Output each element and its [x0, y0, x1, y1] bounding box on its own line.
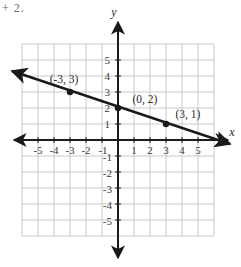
x-tick-label-3: 3: [163, 144, 169, 156]
x-tick-label-2: 2: [147, 144, 153, 156]
y-tick-label-minus1: -1: [103, 151, 112, 163]
y-tick-label-3: 3: [105, 86, 111, 98]
data-point-3-1: [163, 121, 169, 127]
y-tick-label-4: 4: [105, 70, 111, 82]
y-tick-label-minus2: -2: [103, 167, 112, 179]
graph-figure: + 2.: [0, 0, 241, 267]
y-tick-label-2: 2: [105, 102, 111, 114]
y-tick-label-5: 5: [105, 54, 111, 66]
x-tick-label-1: 1: [131, 144, 137, 156]
x-tick-label-4: 4: [179, 144, 185, 156]
y-tick-label-minus5: -5: [103, 215, 113, 227]
y-tick-label-minus3: -3: [103, 183, 113, 195]
x-tick-label-5: 5: [195, 144, 201, 156]
y-tick-label-minus4: -4: [103, 199, 113, 211]
y-tick-label-1: 1: [105, 118, 111, 130]
x-axis-letter: x: [228, 125, 235, 139]
data-point-0-2: [115, 105, 121, 111]
data-point-minus3-3: [67, 89, 73, 95]
point-label-minus3-3: (-3, 3): [50, 73, 79, 86]
y-axis-letter: y: [110, 5, 117, 19]
point-label-0-2: (0, 2): [133, 93, 158, 106]
x-tick-label-minus3: -3: [65, 144, 75, 156]
x-tick-label-minus5: -5: [33, 144, 43, 156]
coordinate-plane: #grid-vertical line, #grid-horizontal li…: [0, 0, 241, 267]
x-tick-label-minus2: -2: [81, 144, 90, 156]
point-label-3-1: (3, 1): [176, 108, 201, 121]
x-tick-label-minus4: -4: [49, 144, 59, 156]
